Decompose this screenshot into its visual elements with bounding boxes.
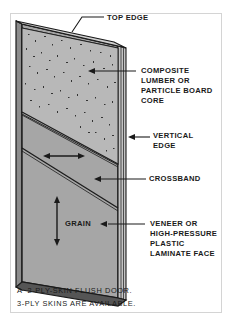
label-face-2: HIGH-PRESSURE [150, 229, 217, 239]
caption-line-1: A 2-PLY-SKIN FLUSH DOOR. [17, 284, 132, 298]
label-vertical-edge-2: EDGE [153, 141, 176, 151]
caption-line-2: 3-PLY SKINS ARE AVAILABLE. [17, 297, 136, 311]
label-core-3: PARTICLE BOARD [141, 86, 213, 96]
label-face-1: VENEER OR [150, 219, 197, 229]
label-grain: GRAIN [65, 219, 91, 229]
label-core-2: LUMBER OR [141, 76, 190, 86]
vertical-edge [118, 46, 126, 300]
label-top-edge: TOP EDGE [107, 13, 148, 23]
label-crossband: CROSSBAND [149, 174, 201, 184]
label-vertical-edge-1: VERTICAL [153, 131, 193, 141]
door-diagram [0, 0, 232, 321]
label-face-4: LAMINATE FACE [150, 249, 215, 259]
label-face-3: PLASTIC [150, 239, 185, 249]
label-core-4: CORE [141, 96, 164, 106]
label-core-1: COMPOSITE [141, 66, 189, 76]
left-edge [16, 21, 22, 290]
